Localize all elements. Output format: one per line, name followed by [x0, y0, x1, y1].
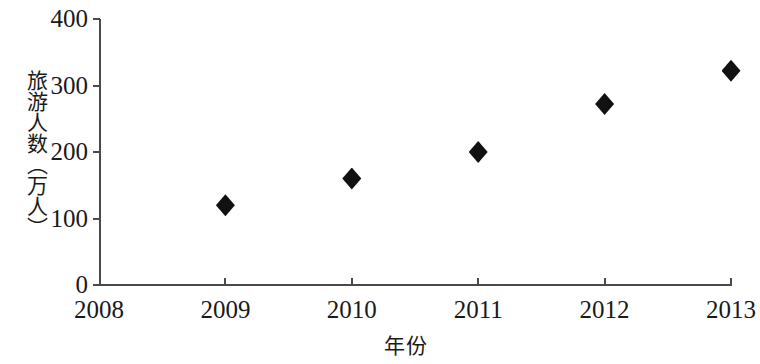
data-point-marker [722, 60, 741, 82]
x-axis-tick-label: 2011 [423, 296, 533, 324]
x-axis-tick-label: 2012 [550, 296, 660, 324]
y-axis-tick-mark [93, 218, 100, 220]
x-axis-line [99, 284, 731, 286]
y-axis-tick-label: 200 [0, 139, 88, 164]
data-point-marker [216, 194, 235, 216]
y-axis-tick-mark [93, 85, 100, 87]
x-axis-tick-label: 2010 [297, 296, 407, 324]
y-axis-tick-label-text: 300 [0, 73, 88, 98]
y-axis-tick-label: 400 [0, 6, 88, 31]
y-axis-tick-label: 100 [0, 206, 88, 231]
x-axis-title-text: 年份 [384, 334, 428, 358]
y-axis-tick-label-text: 400 [0, 6, 88, 31]
x-axis-title: 年份 [0, 334, 751, 358]
y-axis-tick-mark [93, 284, 100, 286]
x-axis-tick-label: 2008 [44, 296, 154, 324]
x-axis-tick-mark [730, 278, 732, 286]
y-axis-tick-label-text: 0 [0, 272, 88, 297]
x-axis-tick-mark [351, 278, 353, 286]
y-axis-tick-mark [93, 18, 100, 20]
x-axis-tick-label: 2009 [170, 296, 280, 324]
data-point-marker [342, 168, 361, 190]
data-point-marker [595, 93, 614, 115]
x-axis-tick-mark [477, 278, 479, 286]
y-axis-tick-mark [93, 151, 100, 153]
y-axis-tick-label-text: 200 [0, 139, 88, 164]
data-point-marker [469, 141, 488, 163]
y-axis-tick-label: 0 [0, 272, 88, 297]
y-axis-tick-label-text: 100 [0, 206, 88, 231]
x-axis-tick-label: 2013 [676, 296, 760, 324]
x-axis-tick-mark [224, 278, 226, 286]
x-axis-tick-mark [604, 278, 606, 286]
y-axis-tick-label: 300 [0, 73, 88, 98]
